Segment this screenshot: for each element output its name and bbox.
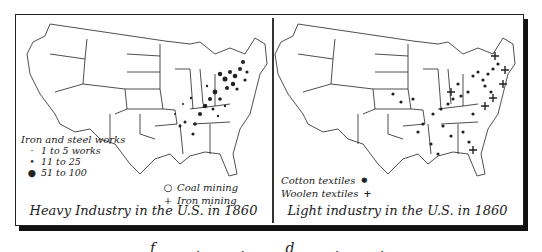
legend-label: Woolen textiles [281,187,358,200]
legend-label: Cotton textiles [281,174,355,187]
light-industry-panel: Cotton textiles ● Woolen textiles + Ligh… [273,14,522,226]
legend-item-cotton-textiles: Cotton textiles ● [281,174,372,187]
legend-item-coal-mining: ○ Coal mining [163,181,238,194]
legend-label: 1 to 5 works [41,145,101,156]
legend-label: Coal mining [177,181,238,194]
large-dot-icon: ● [27,167,37,178]
light-industry-caption: Light industry in the U.S. in 1860 [273,203,522,218]
heavy-industry-panel: Iron and steel works · 1 to 5 works • 11… [15,14,272,226]
legend-item-woolen-textiles: Woolen textiles + [281,187,372,200]
cross-icon: + [362,187,372,200]
heavy-industry-caption: Heavy Industry in the U.S. in 1860 [15,203,272,218]
legend-label: 11 to 25 [41,156,81,167]
legend-title: Iron and steel works [21,134,125,145]
us-map-light-industry [273,14,522,184]
small-dot-icon: · [27,145,37,156]
legend-item-large-works: ● 51 to 100 [21,167,125,178]
legend-label: 51 to 100 [41,167,87,178]
medium-dot-icon: • [27,156,37,167]
partial-bottom-text: f . . d . . [150,240,450,252]
legend-item-small-works: · 1 to 5 works [21,145,125,156]
light-industry-legend: Cotton textiles ● Woolen textiles + [281,174,372,200]
heavy-industry-legend: Iron and steel works · 1 to 5 works • 11… [21,134,125,178]
dot-icon: ● [359,174,369,187]
legend-item-medium-works: • 11 to 25 [21,156,125,167]
open-circle-icon: ○ [163,181,173,194]
